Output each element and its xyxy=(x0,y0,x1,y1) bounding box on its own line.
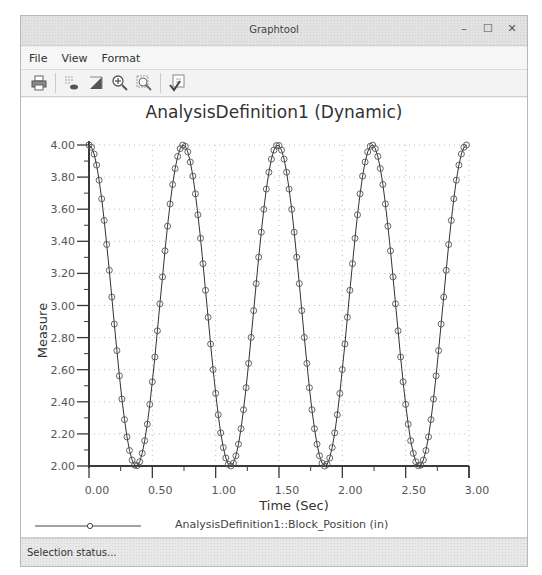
toolbar xyxy=(21,69,527,97)
print-icon xyxy=(30,74,48,92)
y-tick-label: 3.40 xyxy=(51,235,76,248)
menu-view[interactable]: View xyxy=(61,52,87,65)
y-tick-label: 4.00 xyxy=(51,139,76,152)
y-tick-label: 3.60 xyxy=(51,203,76,216)
menu-file[interactable]: File xyxy=(29,52,47,65)
window-title: Graphtool xyxy=(21,24,527,35)
y-tick-label: 3.20 xyxy=(51,267,76,280)
maximize-button[interactable]: ☐ xyxy=(481,22,495,36)
print-button[interactable] xyxy=(29,73,49,93)
x-tick-label: 1.50 xyxy=(275,484,300,497)
x-tick-label: 2.00 xyxy=(338,484,363,497)
y-tick-label: 2.20 xyxy=(51,428,76,441)
fill-icon xyxy=(87,74,105,92)
status-text: Selection status... xyxy=(27,547,117,558)
toolbar-separator xyxy=(160,73,161,93)
y-tick-label: 3.00 xyxy=(51,300,76,313)
menu-bar: File View Format xyxy=(21,47,527,69)
zoom-in-button[interactable] xyxy=(110,73,130,93)
x-tick-label: 0.50 xyxy=(148,484,173,497)
x-axis-label: Time (Sec) xyxy=(21,498,527,513)
legend-label: AnalysisDefinition1::Block_Position (in) xyxy=(175,518,388,531)
zoom-fit-icon xyxy=(135,74,153,92)
title-bar[interactable]: Graphtool – ☐ ✕ xyxy=(21,16,527,46)
graphtool-window: Graphtool – ☐ ✕ File View Format xyxy=(20,15,528,567)
menu-format[interactable]: Format xyxy=(102,52,141,65)
apply-button[interactable] xyxy=(167,73,187,93)
show-points-icon xyxy=(63,74,81,92)
status-bar: Selection status... xyxy=(21,538,527,566)
legend: AnalysisDefinition1::Block_Position (in) xyxy=(33,516,523,534)
zoom-fit-button[interactable] xyxy=(134,73,154,93)
minimize-button[interactable]: – xyxy=(457,22,471,36)
y-tick-label: 2.80 xyxy=(51,332,76,345)
zoom-in-icon xyxy=(111,74,129,92)
fill-button[interactable] xyxy=(86,73,106,93)
chart-canvas[interactable]: 2.002.202.402.602.803.003.203.403.603.80… xyxy=(21,98,527,498)
x-tick-label: 2.50 xyxy=(401,484,426,497)
legend-line-marker-icon xyxy=(33,518,153,534)
y-tick-label: 2.00 xyxy=(51,460,76,473)
window-controls: – ☐ ✕ xyxy=(457,22,519,36)
y-tick-label: 3.80 xyxy=(51,171,76,184)
apply-icon xyxy=(168,74,186,92)
plot-area[interactable]: AnalysisDefinition1 (Dynamic) Measure 2.… xyxy=(21,98,527,538)
x-tick-label: 3.00 xyxy=(465,484,490,497)
y-tick-label: 2.40 xyxy=(51,396,76,409)
show-points-button[interactable] xyxy=(62,73,82,93)
close-button[interactable]: ✕ xyxy=(505,22,519,36)
toolbar-separator xyxy=(55,73,56,93)
y-tick-label: 2.60 xyxy=(51,364,76,377)
x-tick-label: 0.00 xyxy=(85,484,110,497)
x-tick-label: 1.00 xyxy=(211,484,236,497)
